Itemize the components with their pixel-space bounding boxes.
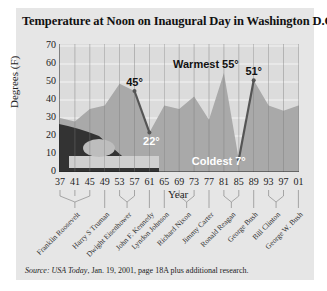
bracket-line xyxy=(179,196,186,202)
source-note: Source: USA Today, Jan. 19, 2001, page 1… xyxy=(25,266,248,275)
bracket-line xyxy=(127,196,134,202)
bracket-line xyxy=(224,196,231,202)
bracket-line xyxy=(75,196,90,202)
bracket-line xyxy=(60,196,75,202)
bracket-line xyxy=(269,196,276,202)
source-prefix: Source: xyxy=(25,266,50,275)
bracket-line xyxy=(120,196,127,202)
source-details: , Jan. 19, 2001, page 18A plus additiona… xyxy=(87,266,248,275)
source-publication: USA Today xyxy=(52,266,88,275)
bracket-line xyxy=(187,196,194,202)
bracket-line xyxy=(276,196,283,202)
bracket-line xyxy=(231,196,238,202)
